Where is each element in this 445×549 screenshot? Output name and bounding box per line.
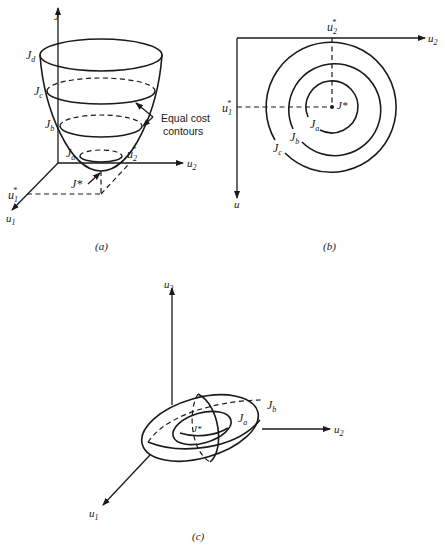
label-jd: Jd [26, 48, 36, 64]
inner-equator [180, 428, 228, 436]
label-ja-b: Ja [310, 117, 319, 133]
label-j: J [54, 9, 60, 23]
label-jstar-a: J* [71, 177, 82, 191]
pointer-jstar [88, 173, 100, 184]
contour-jb-front [60, 126, 142, 137]
label-u2-a: u2 [187, 157, 197, 172]
contour-ja-front [80, 156, 122, 162]
annotation-contours: contours [163, 125, 203, 137]
caption-c: (c) [192, 530, 205, 543]
label-u1-a: u1 [6, 212, 16, 227]
label-jstar-c: J* [193, 424, 202, 434]
u1-axis-c [103, 455, 150, 505]
label-jc-b: Jc [273, 141, 282, 157]
contour-ja-back [80, 150, 122, 156]
panel-c: u3 u2 u1 Ja Jb J* (c) [89, 278, 344, 543]
label-u1-c: u1 [89, 507, 99, 522]
label-u1star-b: u1* [222, 99, 232, 117]
label-u2star-a: u2* [127, 145, 137, 163]
contour-jb-b [289, 64, 381, 156]
contour-jc-back [47, 78, 155, 91]
label-u2-b: u2 [428, 32, 438, 47]
minimum-point-b [330, 105, 334, 109]
label-ja: Ja [66, 146, 75, 162]
contour-jb-back [60, 115, 142, 126]
caption-b: (b) [323, 240, 336, 253]
contour-ja-c [169, 405, 235, 450]
label-jc: Jc [34, 84, 43, 100]
label-jb-c: Jb [267, 398, 276, 414]
label-u-b: u [234, 198, 240, 210]
u1-axis [12, 163, 58, 210]
contour-jc-front [47, 91, 155, 104]
label-u1star-a: u1* [8, 186, 18, 204]
label-jstar-b: J* [337, 99, 348, 111]
pointer-jc [136, 103, 153, 117]
label-u2star-b: u2* [327, 18, 337, 36]
label-ja-c: Ja [238, 411, 247, 427]
cost-contour-figure: J Jd Jc Jb Ja J* u2* u1* u1 u2 Equal cos… [0, 0, 445, 549]
annotation-equal-cost: Equal cost [161, 112, 210, 124]
caption-a: (a) [95, 240, 108, 253]
panel-b: u2* u1* u2 u J* Ja Jb Jc (b) [222, 18, 438, 253]
label-jb: Jb [45, 117, 54, 133]
label-u3: u3 [164, 278, 174, 293]
panel-a: J Jd Jc Jb Ja J* u2* u1* u1 u2 Equal cos… [6, 8, 210, 253]
projection-u2 [101, 165, 128, 194]
label-u2-c: u2 [334, 423, 344, 438]
label-jb-b: Jb [290, 130, 299, 146]
